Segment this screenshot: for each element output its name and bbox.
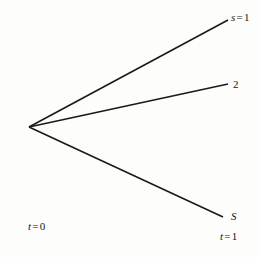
branch-line-s-2 <box>29 84 228 127</box>
label-time-end-eq: = <box>223 230 231 242</box>
label-state-s-1-eq: = <box>235 11 243 23</box>
label-state-s-S-var: S <box>231 210 237 222</box>
label-state-s-2-value: 2 <box>233 78 239 90</box>
label-state-s-2: 2 <box>233 79 239 90</box>
branch-line-s-S <box>29 127 223 217</box>
label-time-start-value: 0 <box>40 220 46 232</box>
label-state-s-1-value: 1 <box>244 11 250 23</box>
label-time-end-value: 1 <box>232 230 238 242</box>
branch-line-s-1 <box>29 20 228 127</box>
branch-lines-group <box>0 0 259 257</box>
label-state-s-S: S <box>231 211 237 222</box>
figure-canvas: s=1 2 S t=0 t=1 <box>0 0 259 257</box>
label-time-end: t=1 <box>220 231 237 242</box>
label-time-start: t=0 <box>28 221 45 232</box>
label-time-start-eq: = <box>31 220 39 232</box>
label-state-s-1: s=1 <box>231 12 250 23</box>
